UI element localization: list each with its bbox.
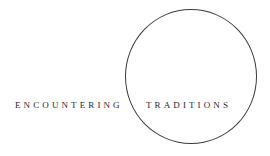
logo-word-traditions: TRADITIONS bbox=[146, 100, 231, 110]
circle-outline-icon bbox=[125, 9, 257, 144]
encountering-traditions-logo: ENCOUNTERING TRADITIONS bbox=[0, 0, 270, 156]
logo-word-encountering: ENCOUNTERING bbox=[15, 100, 123, 110]
